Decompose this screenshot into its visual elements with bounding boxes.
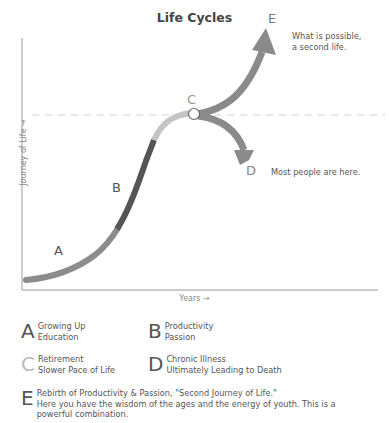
legend-letter: C [21, 353, 35, 375]
legend-line: Productivity [165, 321, 214, 332]
curve-segment-c [154, 113, 192, 140]
legend-item-b: B ProductivityPassion [148, 320, 213, 342]
point-a-label: A [54, 243, 63, 258]
legend-line: Rebirth of Productivity & Passion, "Seco… [37, 388, 336, 399]
legend-item-a: A Growing UpEducation [21, 320, 85, 342]
point-e-label: E [268, 11, 276, 26]
legend-line: Chronic Illness [166, 354, 281, 365]
point-b-label: B [112, 180, 121, 195]
legend-letter: D [148, 353, 163, 375]
legend-line: Ultimately Leading to Death [166, 365, 281, 376]
branch-d-path [198, 116, 244, 150]
legend-line: Retirement [38, 354, 115, 365]
x-axis-label: Years → [0, 294, 389, 303]
legend-line: Slower Pace of Life [38, 365, 115, 376]
retirement-marker [189, 109, 200, 120]
legend-item-d: D Chronic IllnessUltimately Leading to D… [148, 353, 282, 375]
arrow-up-icon [252, 28, 276, 55]
legend-line: powerful combination. [37, 409, 336, 420]
legend-letter: B [148, 320, 162, 342]
legend-line: Education [38, 332, 86, 343]
curve-segment-a [26, 228, 118, 280]
curve-segment-b [117, 140, 154, 229]
legend-line: Growing Up [38, 321, 86, 332]
note-line: a second life. [292, 42, 361, 53]
branch-e-path [198, 52, 262, 114]
legend-item-e: E Rebirth of Productivity & Passion, "Se… [21, 387, 336, 420]
legend-letter: A [21, 320, 35, 342]
most-people-note: Most people are here. [271, 167, 360, 178]
legend-letter: E [21, 387, 34, 409]
second-life-note: What is possible, a second life. [292, 31, 361, 53]
legend-line: Passion [165, 332, 214, 343]
legend-item-c: C RetirementSlower Pace of Life [21, 353, 115, 375]
note-line: What is possible, [292, 31, 361, 42]
point-d-label: D [246, 163, 256, 178]
legend-line: Here you have the wisdom of the ages and… [37, 399, 336, 410]
point-c-label: C [187, 92, 196, 107]
y-axis-label: Journey of Life → [19, 108, 28, 198]
